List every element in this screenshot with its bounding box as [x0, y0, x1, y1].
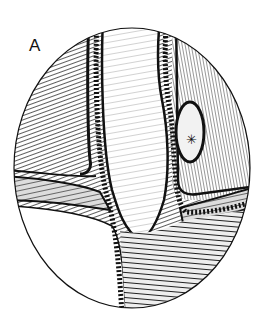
panel-label: A	[29, 36, 40, 56]
asterisk-marker-icon: ✳	[186, 132, 197, 147]
